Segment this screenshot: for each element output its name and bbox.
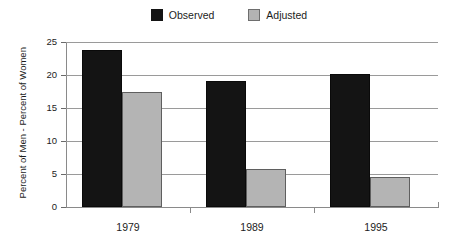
legend-entry-adjusted: Adjusted (248, 9, 307, 21)
gridline (66, 42, 438, 43)
observed-swatch-icon (151, 9, 163, 21)
legend-label-observed: Observed (169, 10, 215, 21)
y-tick-mark (61, 207, 66, 208)
x-tick-label-1989: 1989 (212, 222, 292, 233)
y-tick-label: 10 (33, 136, 57, 146)
y-tick-label: 25 (33, 37, 57, 47)
x-tick-label-1979: 1979 (88, 222, 168, 233)
legend-label-adjusted: Adjusted (266, 10, 307, 21)
y-axis-title: Percent of Men - Percent of Women (16, 38, 30, 208)
x-axis-line (66, 207, 439, 208)
x-tick-label-1995: 1995 (336, 222, 416, 233)
legend-entry-observed: Observed (151, 9, 215, 21)
bar-chart: Observed Adjusted Percent of Men - Perce… (0, 0, 458, 250)
y-tick-label: 5 (33, 169, 57, 179)
bar-observed-1989 (206, 81, 246, 207)
bar-observed-1995 (330, 74, 370, 207)
bar-adjusted-1989 (246, 169, 286, 207)
adjusted-swatch-icon (248, 9, 260, 21)
bar-adjusted-1995 (370, 177, 410, 207)
x-tick-mark (190, 208, 191, 213)
y-tick-label: 0 (33, 202, 57, 212)
y-tick-label: 15 (33, 103, 57, 113)
y-axis-title-text: Percent of Men - Percent of Women (18, 47, 28, 198)
x-tick-mark (314, 208, 315, 213)
x-axis-end-tick (438, 202, 439, 208)
bar-adjusted-1979 (122, 92, 162, 207)
chart-legend: Observed Adjusted (0, 6, 458, 24)
bar-observed-1979 (82, 50, 122, 207)
y-tick-label: 20 (33, 70, 57, 80)
plot-area (66, 42, 438, 207)
